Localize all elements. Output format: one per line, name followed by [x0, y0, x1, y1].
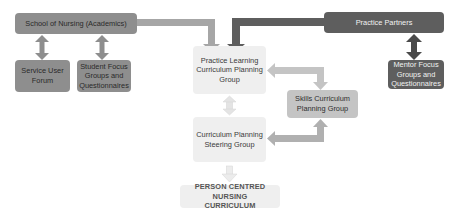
practice-partners-node: Practice Partners: [324, 12, 444, 33]
practice-learning-label: Practice Learning Curriculum Planning Gr…: [195, 56, 264, 85]
skills-curriculum-label: Skills Curriculum Planning Group: [289, 94, 356, 113]
school-of-nursing-node: School of Nursing (Academics): [15, 13, 137, 34]
service-user-forum-label: Service User Forum: [17, 66, 68, 85]
student-focus-groups-label: Student Focus Groups and Questionnaires: [79, 62, 129, 91]
arrow-steering-skills: [267, 119, 328, 146]
skills-curriculum-node: Skills Curriculum Planning Group: [287, 90, 358, 118]
school-of-nursing-label: School of Nursing (Academics): [25, 19, 126, 29]
service-user-forum-node: Service User Forum: [15, 60, 70, 92]
steering-group-label: Curriculum Planning Steering Group: [195, 130, 264, 149]
practice-learning-node: Practice Learning Curriculum Planning Gr…: [193, 46, 266, 94]
mentor-focus-groups-node: Mentor Focus Groups and Questionnaires: [388, 60, 444, 89]
steering-group-node: Curriculum Planning Steering Group: [193, 117, 266, 162]
arrow-school-service-user: [35, 35, 49, 60]
arrow-steering-final: [222, 166, 237, 182]
person-centred-curriculum-node: PERSON CENTRED NURSING CURRICULUM: [180, 185, 280, 208]
practice-partners-label: Practice Partners: [356, 18, 413, 28]
arrow-school-student-focus: [95, 35, 109, 60]
mentor-focus-groups-label: Mentor Focus Groups and Questionnaires: [390, 60, 442, 89]
arrow-practice-learning-skills: [267, 63, 328, 90]
arrow-partners-mentor: [406, 34, 422, 60]
person-centred-curriculum-label: PERSON CENTRED NURSING CURRICULUM: [188, 182, 272, 211]
student-focus-groups-node: Student Focus Groups and Questionnaires: [77, 60, 131, 92]
arrow-practice-learning-steering: [223, 96, 236, 115]
